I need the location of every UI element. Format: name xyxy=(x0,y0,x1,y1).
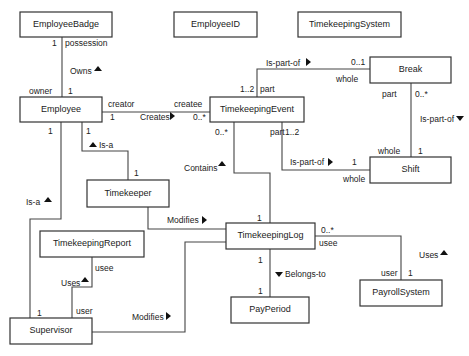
direction-up-icon xyxy=(81,277,89,282)
role-label: creator xyxy=(108,99,135,109)
role-label: user xyxy=(76,306,93,316)
role-label: part xyxy=(260,84,275,94)
direction-down-icon xyxy=(456,116,464,121)
association-name-label: Is-a xyxy=(99,140,113,150)
multiplicity-label: 1 xyxy=(258,255,263,265)
role-label: whole xyxy=(335,74,358,84)
class-timekeeping-system[interactable]: TimekeepingSystem xyxy=(298,12,401,37)
role-label: part xyxy=(270,127,285,137)
class-timekeeper[interactable]: Timekeeper xyxy=(87,180,169,207)
direction-right-icon xyxy=(306,58,311,66)
role-label: whole xyxy=(342,174,365,184)
role-label: whole xyxy=(377,146,400,156)
direction-up-icon xyxy=(94,66,102,71)
role-label: createe xyxy=(174,99,203,109)
class-timekeeping-event[interactable]: TimekeepingEvent xyxy=(210,97,304,122)
class-timekeeping-report[interactable]: TimekeepingReport xyxy=(40,231,144,257)
association-name-label: Is-part-of xyxy=(420,114,455,124)
class-employee-badge[interactable]: EmployeeBadge xyxy=(20,12,112,37)
multiplicity-label: 0..* xyxy=(215,127,228,137)
multiplicity-label: 1 xyxy=(418,146,423,156)
association-name-label: Is-a xyxy=(26,197,40,207)
association-name-label: Belongs-to xyxy=(285,269,326,279)
association-name-label: Is-part-of xyxy=(290,157,325,167)
class-name: Shift xyxy=(401,164,420,174)
multiplicity-label: 0..* xyxy=(415,89,428,99)
class-name: EmployeeBadge xyxy=(33,19,99,29)
class-name: PayPeriod xyxy=(249,304,291,314)
association-name-label: Contains xyxy=(184,163,218,173)
class-employee[interactable]: Employee xyxy=(20,97,102,122)
role-label: possession xyxy=(65,38,108,48)
role-label: usee xyxy=(95,263,114,273)
direction-up-icon xyxy=(440,250,448,255)
multiplicity-label: 1 xyxy=(258,286,263,296)
association-name-label: Uses xyxy=(61,278,80,288)
class-name: EmployeeID xyxy=(191,19,241,29)
direction-down-icon xyxy=(275,272,283,277)
class-name: PayrollSystem xyxy=(372,287,430,297)
multiplicity-label: 1..2 xyxy=(285,127,299,137)
multiplicity-label: 1 xyxy=(408,268,413,278)
multiplicity-label: 1 xyxy=(86,126,91,136)
class-employee-id[interactable]: EmployeeID xyxy=(174,12,257,37)
multiplicity-label: 1 xyxy=(352,157,357,167)
multiplicity-label: 1 xyxy=(52,38,57,48)
association-name-label: Is-part-of xyxy=(266,58,301,68)
class-timekeeping-log[interactable]: TimekeepingLog xyxy=(226,223,315,249)
direction-right-icon xyxy=(166,312,171,320)
class-payroll-system[interactable]: PayrollSystem xyxy=(360,280,442,306)
class-name: Timekeeper xyxy=(104,188,151,198)
class-name: TimekeepingReport xyxy=(53,238,132,248)
multiplicity-label: 0..* xyxy=(321,225,334,235)
role-label: usee xyxy=(319,238,338,248)
employee-supervisor-isa-line xyxy=(30,122,61,318)
class-shift[interactable]: Shift xyxy=(370,157,451,183)
direction-right-icon xyxy=(170,112,175,120)
association-name-label: Uses xyxy=(419,250,438,260)
class-name: Break xyxy=(399,64,423,74)
class-name: Supervisor xyxy=(29,325,72,335)
class-name: TimekeepingSystem xyxy=(309,19,390,29)
direction-up-icon xyxy=(89,142,97,147)
multiplicity-label: 1 xyxy=(68,86,73,96)
direction-right-icon xyxy=(202,216,207,224)
association-name-label: Modifies xyxy=(167,215,199,225)
class-name: TimekeepingEvent xyxy=(220,104,295,114)
class-pay-period[interactable]: PayPeriod xyxy=(231,297,309,323)
class-name: TimekeepingLog xyxy=(237,230,303,240)
multiplicity-label: 1 xyxy=(37,308,42,318)
direction-right-icon xyxy=(328,158,333,166)
role-label: user xyxy=(381,268,398,278)
multiplicity-label: 1 xyxy=(48,126,53,136)
contains-association-line xyxy=(234,122,270,223)
direction-up-icon xyxy=(44,197,52,202)
multiplicity-label: 1 xyxy=(110,112,115,122)
role-label: owner xyxy=(29,86,52,96)
association-name-label: Modifies xyxy=(132,312,164,322)
role-label: part xyxy=(382,89,397,99)
multiplicity-label: 0..1 xyxy=(351,57,365,67)
class-name: Employee xyxy=(41,104,81,114)
multiplicity-label: 1 xyxy=(257,213,262,223)
direction-up-icon xyxy=(218,161,226,166)
multiplicity-label: 1 xyxy=(134,168,139,178)
uml-class-diagram: EmployeeBadge EmployeeID TimekeepingSyst… xyxy=(0,0,469,356)
association-name-label: Creates xyxy=(140,112,170,122)
association-name-label: Owns xyxy=(70,66,92,76)
class-supervisor[interactable]: Supervisor xyxy=(10,318,92,344)
multiplicity-label: 0..* xyxy=(193,112,206,122)
class-break[interactable]: Break xyxy=(370,57,451,83)
multiplicity-label: 1..2 xyxy=(240,84,254,94)
